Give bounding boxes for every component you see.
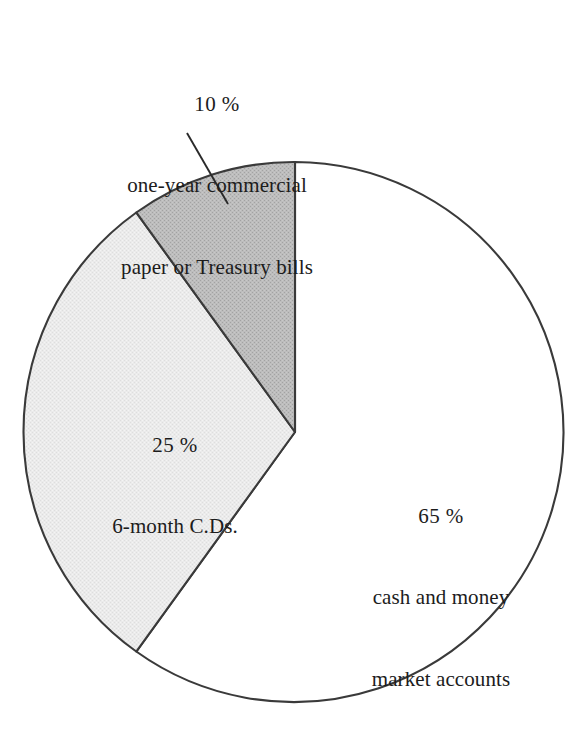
pie-chart-figure: 10 % one-year commercial paper or Treasu…	[0, 0, 583, 739]
slice-description-commercial-paper-line1: one-year commercial	[32, 172, 402, 199]
slice-percent-commercial-paper: 10 %	[32, 91, 402, 118]
slice-label-one-year-commercial-paper-or-treasury-bills: 10 % one-year commercial paper or Treasu…	[32, 36, 402, 336]
slice-description-cash-line1: cash and money	[316, 584, 566, 611]
slice-percent-cash: 65 %	[316, 503, 566, 530]
slice-description-cds-line1: 6-month C.Ds.	[30, 513, 320, 540]
slice-label-cash-and-money-market-accounts: 65 % cash and money market accounts	[316, 448, 566, 739]
slice-description-commercial-paper-line2: paper or Treasury bills	[32, 254, 402, 281]
slice-description-cash-line2: market accounts	[316, 666, 566, 693]
slice-percent-cds: 25 %	[30, 432, 320, 459]
slice-label-6-month-cds: 25 % 6-month C.Ds.	[30, 377, 320, 595]
